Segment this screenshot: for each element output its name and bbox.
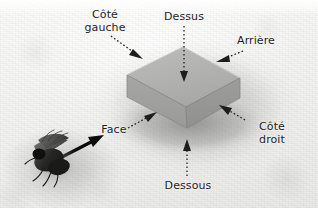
arrowhead-cote-gauche <box>129 49 143 59</box>
label-dessus: Dessus <box>158 11 210 24</box>
label-cote-gauche: Côté gauche <box>76 9 134 34</box>
leader-cote-droit <box>228 110 245 120</box>
label-dessous: Dessous <box>160 180 216 193</box>
label-face: Face <box>94 124 134 137</box>
arrowhead-dessous <box>183 139 191 151</box>
label-cote-droit: Côté droit <box>248 121 296 146</box>
arrowhead-cote-droit <box>219 105 232 115</box>
arrowhead-arriere <box>216 55 230 62</box>
fly-specimen <box>20 118 94 198</box>
figure-panel: Côté gauche Dessus Arrière Face Côté dro… <box>0 0 318 208</box>
arrowhead-dessus <box>180 71 188 82</box>
label-arriere: Arrière <box>228 35 284 48</box>
arrowhead-face <box>144 112 157 122</box>
